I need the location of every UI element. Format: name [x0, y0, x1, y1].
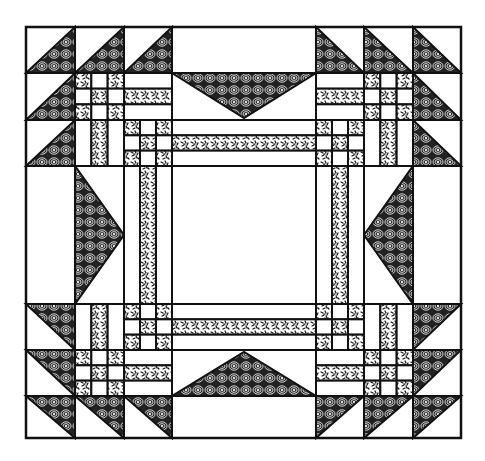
- nine-patch-cell: [91, 350, 107, 365]
- rail-strip: [156, 166, 172, 304]
- quilt-block-diagram: [0, 0, 485, 461]
- nine-patch-cell: [397, 365, 413, 380]
- nine-patch-cell: [108, 350, 124, 365]
- rail-strip: [316, 381, 364, 396]
- nine-patch-cell: [91, 89, 107, 105]
- nine-patch-cell: [75, 89, 91, 105]
- nine-patch-cell: [380, 350, 396, 365]
- nine-patch-cell: [332, 304, 348, 319]
- nine-patch-cell: [156, 335, 172, 350]
- nine-patch-cell: [348, 151, 364, 166]
- rail-strip: [380, 120, 396, 166]
- rail-strip: [172, 151, 316, 166]
- nine-patch-cell: [156, 120, 172, 135]
- nine-patch-cell: [108, 381, 124, 396]
- nine-patch-cell: [316, 135, 332, 150]
- nine-patch-cell: [332, 319, 348, 334]
- nine-patch-cell: [108, 89, 124, 105]
- rail-strip: [397, 120, 413, 166]
- rail-strip: [124, 350, 172, 365]
- rail-strip: [316, 350, 364, 365]
- nine-patch-cell: [364, 73, 380, 89]
- rail-strip: [124, 381, 172, 396]
- nine-patch-cell: [91, 365, 107, 380]
- nine-patch-cell: [397, 89, 413, 105]
- rail-strip: [91, 120, 107, 166]
- rail-strip: [124, 365, 172, 380]
- left-plain-rect: [26, 166, 75, 304]
- rail-strip: [108, 120, 124, 166]
- center-square: [172, 166, 316, 304]
- nine-patch-cell: [156, 319, 172, 334]
- rail-strip: [172, 120, 316, 135]
- nine-patch-cell: [124, 135, 140, 150]
- nine-patch-cell: [75, 104, 91, 120]
- rail-strip: [364, 120, 380, 166]
- nine-patch-cell: [364, 89, 380, 105]
- rail-strip: [316, 89, 364, 105]
- rail-strip: [332, 166, 348, 304]
- nine-patch-cell: [348, 120, 364, 135]
- nine-patch-cell: [332, 135, 348, 150]
- rail-strip: [91, 304, 107, 350]
- rail-strip: [364, 304, 380, 350]
- nine-patch-cell: [364, 350, 380, 365]
- nine-patch-cell: [75, 73, 91, 89]
- nine-patch-cell: [397, 350, 413, 365]
- nine-patch-cell: [332, 151, 348, 166]
- rail-strip: [316, 73, 364, 89]
- rail-strip: [75, 120, 91, 166]
- rail-strip: [380, 304, 396, 350]
- nine-patch-cell: [75, 365, 91, 380]
- nine-patch-cell: [316, 319, 332, 334]
- nine-patch-cell: [156, 135, 172, 150]
- nine-patch-cell: [140, 335, 156, 350]
- nine-patch-cell: [140, 120, 156, 135]
- nine-patch-cell: [124, 319, 140, 334]
- nine-patch-cell: [156, 304, 172, 319]
- nine-patch-cell: [332, 120, 348, 135]
- nine-patch-cell: [397, 73, 413, 89]
- nine-patch-cell: [91, 381, 107, 396]
- bottom-plain-rect: [172, 396, 316, 438]
- rail-strip: [316, 365, 364, 380]
- rail-strip: [124, 73, 172, 89]
- nine-patch-cell: [348, 335, 364, 350]
- nine-patch-cell: [397, 104, 413, 120]
- nine-patch-cell: [156, 151, 172, 166]
- rail-strip: [124, 89, 172, 105]
- quilt-content: [26, 27, 461, 438]
- rail-strip: [108, 304, 124, 350]
- nine-patch-cell: [108, 365, 124, 380]
- nine-patch-cell: [140, 135, 156, 150]
- nine-patch-cell: [140, 319, 156, 334]
- rail-strip: [316, 104, 364, 120]
- nine-patch-cell: [380, 381, 396, 396]
- rail-strip: [172, 335, 316, 350]
- nine-patch-cell: [348, 135, 364, 150]
- nine-patch-cell: [364, 381, 380, 396]
- nine-patch-cell: [75, 381, 91, 396]
- rail-strip: [75, 304, 91, 350]
- right-plain-rect: [413, 166, 461, 304]
- nine-patch-cell: [380, 89, 396, 105]
- nine-patch-cell: [140, 151, 156, 166]
- nine-patch-cell: [380, 73, 396, 89]
- nine-patch-cell: [124, 304, 140, 319]
- nine-patch-cell: [124, 120, 140, 135]
- nine-patch-cell: [332, 335, 348, 350]
- rail-strip: [316, 166, 332, 304]
- nine-patch-cell: [316, 335, 332, 350]
- nine-patch-cell: [140, 304, 156, 319]
- nine-patch-cell: [348, 319, 364, 334]
- nine-patch-cell: [108, 73, 124, 89]
- top-plain-rect: [172, 27, 316, 73]
- nine-patch-cell: [316, 151, 332, 166]
- rail-strip: [348, 166, 364, 304]
- nine-patch-cell: [380, 365, 396, 380]
- rail-strip: [397, 304, 413, 350]
- nine-patch-cell: [380, 104, 396, 120]
- rail-strip: [172, 304, 316, 319]
- nine-patch-cell: [124, 151, 140, 166]
- nine-patch-cell: [397, 381, 413, 396]
